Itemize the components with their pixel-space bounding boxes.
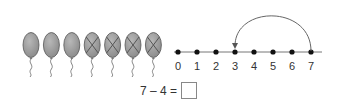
tick-label: 1 — [194, 60, 200, 72]
balloon-crossed — [145, 33, 161, 78]
number-line-point — [270, 49, 275, 54]
balloon — [64, 33, 80, 78]
equation: 7 – 4 = — [140, 82, 197, 99]
answer-box[interactable] — [181, 82, 197, 99]
tick-label: 5 — [270, 60, 276, 72]
number-line-point — [289, 49, 294, 54]
number-line: 01234567 — [174, 16, 322, 72]
balloon-crossed — [84, 33, 100, 78]
balloon — [43, 33, 59, 78]
tick-label: 4 — [251, 60, 257, 72]
balloon-crossed — [105, 33, 121, 78]
balloon-group — [23, 33, 161, 78]
tick-label: 0 — [175, 60, 181, 72]
number-line-point — [175, 49, 180, 54]
tick-label: 7 — [308, 60, 314, 72]
number-line-point — [194, 49, 199, 54]
number-line-point — [213, 49, 218, 54]
number-line-point — [251, 49, 256, 54]
jump-arc — [235, 16, 311, 51]
tick-label: 2 — [213, 60, 219, 72]
number-line-point — [232, 49, 237, 54]
balloon — [23, 33, 39, 78]
tick-label: 6 — [289, 60, 295, 72]
tick-label: 3 — [232, 60, 238, 72]
equation-text: 7 – 4 = — [140, 84, 177, 98]
balloon-crossed — [125, 33, 141, 78]
